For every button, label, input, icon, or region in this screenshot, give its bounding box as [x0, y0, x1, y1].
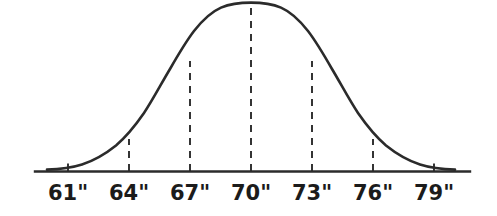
bell-curve-chart: 61" 64" 67" 70" 73" 76" 79"	[0, 0, 497, 216]
normal-distribution-plot	[0, 0, 497, 216]
